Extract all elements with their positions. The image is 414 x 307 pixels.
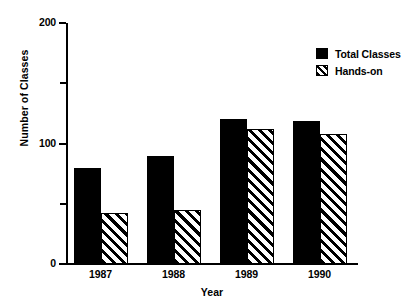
bar-1988-hands-on — [174, 210, 201, 264]
bar-1989-total-classes — [220, 119, 247, 264]
legend-swatch-solid-icon — [316, 48, 328, 59]
bar-1988-total-classes — [147, 156, 174, 264]
y-tick-label-200: 200 — [8, 17, 56, 28]
bar-1990-hands-on — [320, 134, 347, 264]
bar-group-1989 — [220, 23, 274, 264]
y-tick-label-100: 100 — [8, 138, 56, 149]
y-axis-title: Number of Classes — [18, 28, 30, 168]
y-tick-label-0: 0 — [8, 258, 56, 269]
y-tick-major-0 — [59, 263, 66, 265]
bar-groups — [66, 23, 358, 264]
legend-label-hands-on: Hands-on — [335, 65, 383, 77]
bar-group-1988 — [147, 23, 201, 264]
x-axis-title: Year — [66, 286, 358, 298]
legend-label-total-classes: Total Classes — [335, 48, 401, 60]
bar-group-1987 — [74, 23, 128, 264]
bar-1987-total-classes — [74, 168, 101, 264]
x-tick-label-1989: 1989 — [211, 268, 283, 280]
y-tick-major-100 — [59, 143, 66, 145]
bar-1989-hands-on — [247, 129, 274, 264]
x-tick-label-1987: 1987 — [65, 268, 137, 280]
legend-swatch-hatched-icon — [316, 65, 328, 76]
chart-legend: Total Classes Hands-on — [316, 46, 401, 80]
bar-chart: 0100200 Number of Classes Year 198719881… — [0, 0, 414, 307]
y-tick-major-200 — [59, 22, 66, 24]
x-tick-label-1988: 1988 — [138, 268, 210, 280]
bar-1987-hands-on — [101, 213, 128, 264]
bar-1990-total-classes — [293, 121, 320, 264]
legend-item-hands-on: Hands-on — [316, 63, 401, 78]
legend-item-total-classes: Total Classes — [316, 46, 401, 61]
x-tick-label-1990: 1990 — [284, 268, 356, 280]
